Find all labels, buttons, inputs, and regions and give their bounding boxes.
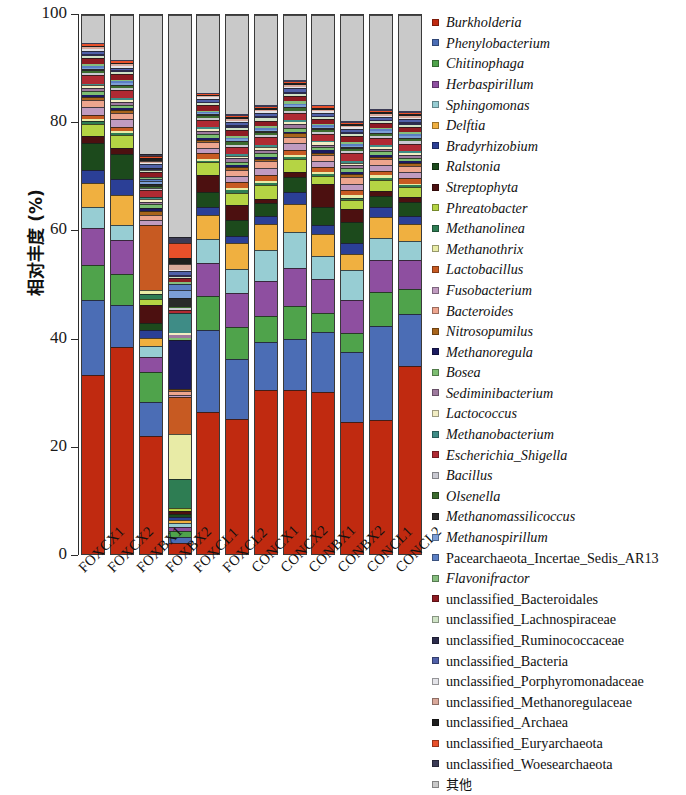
- legend-item[interactable]: Escherichia_Shigella: [432, 444, 686, 465]
- legend-item[interactable]: unclassified_Bacteria: [432, 650, 686, 671]
- legend-item[interactable]: unclassified_Methanoregulaceae: [432, 692, 686, 713]
- legend-swatch-icon: [432, 184, 439, 191]
- legend-item[interactable]: Phenylobacterium: [432, 33, 686, 54]
- bar-CONBX2[interactable]: [340, 14, 364, 555]
- bar-CONCX1[interactable]: [254, 14, 278, 555]
- bar-segment: [312, 207, 334, 225]
- bar-segment: [226, 243, 248, 269]
- bar-segment: [82, 207, 104, 228]
- legend-label: Bacteroides: [446, 304, 513, 318]
- legend-item[interactable]: Methanospirillum: [432, 527, 686, 548]
- y-axis-tick: [71, 339, 78, 340]
- legend-label: Methanobacterium: [446, 427, 554, 441]
- bar-segment: [197, 207, 219, 215]
- bar-segment: [341, 209, 363, 222]
- legend-item[interactable]: Nitrosopumilus: [432, 321, 686, 342]
- legend-swatch-icon: [432, 637, 439, 644]
- y-axis-tick-label: 0: [7, 544, 67, 564]
- legend-swatch-icon: [432, 389, 439, 396]
- legend-item[interactable]: Lactococcus: [432, 403, 686, 424]
- bar-segment: [341, 153, 363, 161]
- legend-swatch-icon: [432, 678, 439, 685]
- bar-segment: [341, 254, 363, 270]
- legend-item[interactable]: Bosea: [432, 362, 686, 383]
- legend-item[interactable]: Phreatobacter: [432, 197, 686, 218]
- bar-FOXCX1[interactable]: [81, 14, 105, 555]
- y-axis-tick: [71, 14, 78, 15]
- bar-segment: [370, 207, 392, 217]
- bar-segment: [111, 305, 133, 347]
- legend-label: Lactobacillus: [446, 262, 523, 276]
- bar-segment: [169, 397, 191, 434]
- legend-item[interactable]: Fusobacterium: [432, 280, 686, 301]
- bar-segment: [226, 327, 248, 359]
- bar-CONBX1[interactable]: [311, 14, 335, 555]
- legend-item[interactable]: Herbaspirillum: [432, 74, 686, 95]
- bar-segment: [111, 15, 133, 59]
- legend-item[interactable]: 其他: [432, 774, 686, 795]
- legend-item[interactable]: Sediminibacterium: [432, 383, 686, 404]
- legend-item[interactable]: Pacearchaeota_Incertae_Sedis_AR13: [432, 547, 686, 568]
- bar-FOXCX2[interactable]: [110, 14, 134, 555]
- legend-item[interactable]: Sphingomonas: [432, 94, 686, 115]
- legend-item[interactable]: Methanomassilicoccus: [432, 506, 686, 527]
- legend-item[interactable]: unclassified_Archaea: [432, 712, 686, 733]
- bar-segment: [197, 162, 219, 174]
- legend-label: Lactococcus: [446, 406, 517, 420]
- bar-FOXCL1[interactable]: [196, 14, 220, 555]
- legend-item[interactable]: Bacteroides: [432, 300, 686, 321]
- legend-label: Phenylobacterium: [446, 36, 550, 50]
- legend-item[interactable]: Delftia: [432, 115, 686, 136]
- bar-CONCL2[interactable]: [398, 14, 422, 555]
- legend-swatch-icon: [432, 410, 439, 417]
- legend-item[interactable]: Chitinophaga: [432, 53, 686, 74]
- bar-FOXCL2[interactable]: [225, 14, 249, 555]
- legend-item[interactable]: unclassified_Ruminococcaceae: [432, 630, 686, 651]
- bar-segment: [255, 281, 277, 316]
- legend-item[interactable]: Ralstonia: [432, 156, 686, 177]
- legend-swatch-icon: [432, 513, 439, 520]
- legend-item[interactable]: Olsenella: [432, 486, 686, 507]
- y-axis-tick-label: 20: [7, 436, 67, 456]
- chart-legend: BurkholderiaPhenylobacteriumChitinophaga…: [432, 12, 686, 795]
- bar-segment: [169, 290, 191, 298]
- legend-item[interactable]: unclassified_Lachnospiraceae: [432, 609, 686, 630]
- bar-segment: [399, 314, 421, 366]
- legend-swatch-icon: [432, 657, 439, 664]
- bar-segment: [226, 193, 248, 206]
- legend-item[interactable]: unclassified_Woesearchaeota: [432, 753, 686, 774]
- legend-item[interactable]: unclassified_Porphyromonadaceae: [432, 671, 686, 692]
- legend-swatch-icon: [432, 245, 439, 252]
- legend-label: unclassified_Ruminococcaceae: [446, 633, 624, 647]
- legend-item[interactable]: Bacillus: [432, 465, 686, 486]
- legend-label: 其他: [446, 778, 472, 791]
- bar-segment: [312, 234, 334, 256]
- legend-item[interactable]: Lactobacillus: [432, 259, 686, 280]
- bar-segment: [284, 159, 306, 172]
- legend-label: Bosea: [446, 365, 481, 379]
- legend-item[interactable]: Methanothrix: [432, 239, 686, 260]
- legend-item[interactable]: unclassified_Euryarchaeota: [432, 733, 686, 754]
- legend-item[interactable]: Streptophyta: [432, 177, 686, 198]
- legend-item[interactable]: Methanobacterium: [432, 424, 686, 445]
- legend-swatch-icon: [432, 781, 439, 788]
- bar-segment: [111, 240, 133, 274]
- bar-segment: [82, 124, 104, 136]
- legend-item[interactable]: Burkholderia: [432, 12, 686, 33]
- legend-item[interactable]: Bradyrhizobium: [432, 136, 686, 157]
- legend-label: Ralstonia: [446, 159, 500, 173]
- legend-label: unclassified_Methanoregulaceae: [446, 695, 632, 709]
- bar-CONCX2[interactable]: [283, 14, 307, 555]
- bar-FOXBX1[interactable]: [139, 14, 163, 555]
- legend-item[interactable]: unclassified_Bacteroidales: [432, 589, 686, 610]
- legend-item[interactable]: Methanoregula: [432, 342, 686, 363]
- bar-segment: [226, 236, 248, 243]
- legend-label: unclassified_Bacteroidales: [446, 592, 598, 606]
- bar-segment: [399, 260, 421, 289]
- bar-FOXBX2[interactable]: [168, 14, 192, 555]
- legend-item[interactable]: Methanolinea: [432, 218, 686, 239]
- bar-CONCL1[interactable]: [369, 14, 393, 555]
- legend-item[interactable]: Flavonifractor: [432, 568, 686, 589]
- bar-segment: [284, 113, 306, 121]
- bar-segment: [197, 175, 219, 193]
